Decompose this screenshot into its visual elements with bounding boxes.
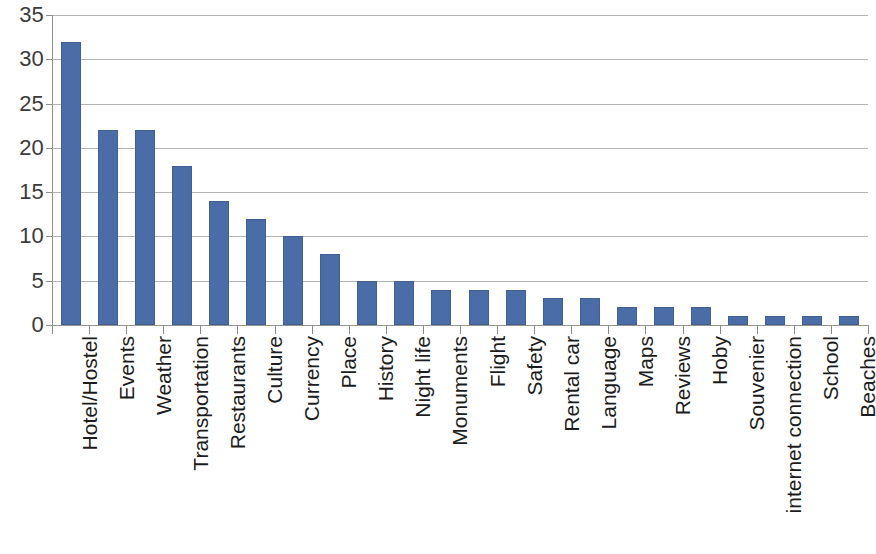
bar-chart: 05101520253035 Hotel/HostelEventsWeather… (0, 0, 876, 554)
x-axis-tick (89, 325, 90, 334)
x-axis-tick (200, 325, 201, 334)
bar (246, 219, 266, 325)
x-axis-tick (423, 325, 424, 334)
x-axis-tick (868, 325, 869, 334)
x-axis-tick (571, 325, 572, 334)
x-axis-category-label: Reviews (672, 336, 693, 546)
x-axis-category-label: Transportation (190, 336, 211, 546)
x-axis-category-label: Language (598, 336, 619, 546)
bar (580, 298, 600, 325)
x-axis-category-label: Flight (487, 336, 508, 546)
bar (61, 42, 81, 325)
y-tick-label-20: 20 (0, 137, 44, 159)
x-axis-category-label: Hotel/Hostel (79, 336, 100, 546)
y-axis-tick-35 (46, 15, 52, 16)
x-axis-tick (126, 325, 127, 334)
bar (431, 290, 451, 325)
x-axis-tick (349, 325, 350, 334)
bar (135, 130, 155, 325)
x-axis-category-label: Maps (635, 336, 656, 546)
y-tick-label-30: 30 (0, 48, 44, 70)
x-axis-tick (831, 325, 832, 334)
bar (172, 166, 192, 325)
x-axis-category-label: Rental car (561, 336, 582, 546)
y-tick-label-0: 0 (0, 314, 44, 336)
x-axis-category-label: Hoby (709, 336, 730, 546)
bar (283, 236, 303, 325)
x-axis-tick (163, 325, 164, 334)
y-tick-label-15: 15 (0, 181, 44, 203)
bar (506, 290, 526, 325)
y-axis-tick-25 (46, 104, 52, 105)
x-axis-tick (757, 325, 758, 334)
bar (765, 316, 785, 325)
x-axis-tick (794, 325, 795, 334)
x-axis-category-label: Beaches (857, 336, 876, 546)
x-axis-category-label: Monuments (449, 336, 470, 546)
x-axis-category-label: Night life (412, 336, 433, 546)
x-axis-tick (386, 325, 387, 334)
x-axis-tick (460, 325, 461, 334)
y-tick-label-10: 10 (0, 225, 44, 247)
y-tick-label-25: 25 (0, 93, 44, 115)
x-axis-ticks (52, 325, 868, 334)
x-axis-tick (312, 325, 313, 334)
y-axis-tick-20 (46, 148, 52, 149)
x-axis-tick (608, 325, 609, 334)
y-axis-tick-15 (46, 192, 52, 193)
y-axis-tick-5 (46, 281, 52, 282)
x-axis-tick (237, 325, 238, 334)
bar (394, 281, 414, 325)
bar (728, 316, 748, 325)
x-axis-category-labels: Hotel/HostelEventsWeatherTransportationR… (52, 336, 868, 554)
x-axis-category-label: Place (338, 336, 359, 546)
bar (209, 201, 229, 325)
x-axis-tick (497, 325, 498, 334)
x-axis-tick (534, 325, 535, 334)
x-axis-category-label: internet connection (783, 336, 804, 546)
x-axis-category-label: Currency (301, 336, 322, 546)
x-axis-category-label: Events (116, 336, 137, 546)
bar (802, 316, 822, 325)
x-axis-tick (683, 325, 684, 334)
x-axis-tick (275, 325, 276, 334)
y-axis-tick-30 (46, 59, 52, 60)
x-axis-category-label: Culture (264, 336, 285, 546)
bar (469, 290, 489, 325)
y-axis-tick-labels: 05101520253035 (0, 0, 46, 340)
x-axis-category-label: School (820, 336, 841, 546)
bar (654, 307, 674, 325)
x-axis-category-label: Weather (153, 336, 174, 546)
y-axis-tick-10 (46, 236, 52, 237)
bar (320, 254, 340, 325)
bar (691, 307, 711, 325)
bar (357, 281, 377, 325)
bar (98, 130, 118, 325)
x-axis-tick (52, 325, 53, 334)
x-axis-category-label: History (375, 336, 396, 546)
y-tick-label-5: 5 (0, 270, 44, 292)
plot-area (52, 15, 868, 325)
bar (617, 307, 637, 325)
bar (839, 316, 859, 325)
bar (543, 298, 563, 325)
bar-series (52, 15, 868, 325)
x-axis-category-label: Safety (524, 336, 545, 546)
y-tick-label-35: 35 (0, 4, 44, 26)
x-axis-category-label: Restaurants (227, 336, 248, 546)
x-axis-category-label: Souvenier (746, 336, 767, 546)
x-axis-tick (720, 325, 721, 334)
x-axis-tick (645, 325, 646, 334)
